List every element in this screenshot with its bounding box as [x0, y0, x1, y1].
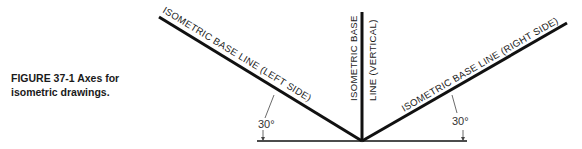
right-axis-label: ISOMETRIC BASE LINE (RIGHT SIDE)	[400, 15, 560, 114]
isometric-axes-diagram: ISOMETRIC BASE LINE (LEFT SIDE) ISOMETRI…	[0, 0, 582, 149]
left-axis-label: ISOMETRIC BASE LINE (LEFT SIDE)	[161, 4, 314, 103]
vertical-axis-label-line-1: ISOMETRIC BASE	[348, 15, 359, 101]
left-angle-label: 30°	[258, 118, 275, 130]
vertical-axis-label-line-2: LINE (VERTICAL)	[367, 19, 378, 101]
left-angle-leader	[265, 95, 274, 118]
right-angle-label: 30°	[452, 115, 469, 127]
right-angle-leader	[452, 95, 457, 113]
